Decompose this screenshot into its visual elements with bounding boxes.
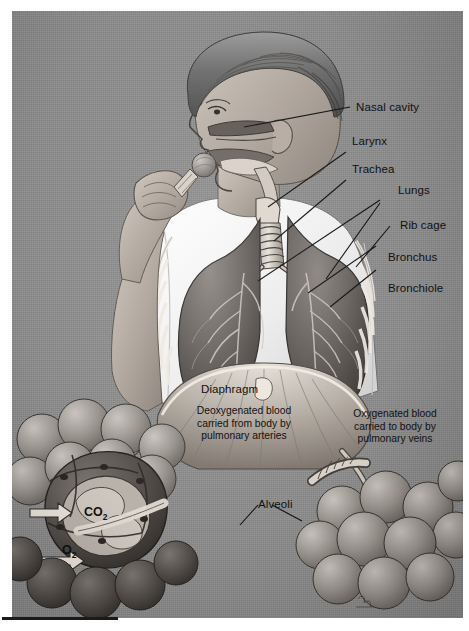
label-carbon-dioxide: CO2: [84, 505, 107, 522]
label-trachea: Trachea: [352, 163, 394, 176]
label-rib-cage: Rib cage: [400, 219, 446, 232]
co2-symbol: CO: [84, 505, 103, 519]
respiratory-system-figure: Nasal cavity Larynx Trachea Lungs Rib ca…: [0, 0, 469, 631]
label-oxygen: O2: [62, 543, 76, 560]
label-bronchiole: Bronchiole: [388, 282, 443, 295]
label-larynx: Larynx: [352, 135, 387, 148]
label-lungs: Lungs: [398, 184, 430, 197]
label-nasal-cavity: Nasal cavity: [356, 101, 419, 114]
co2-subscript: 2: [103, 512, 108, 522]
label-bronchus: Bronchus: [388, 251, 437, 264]
label-diaphragm: Diaphragm: [201, 383, 258, 396]
o2-subscript: 2: [72, 550, 77, 560]
bottom-rule: [2, 617, 118, 620]
label-alveoli: Alveoli: [258, 498, 293, 511]
o2-symbol: O: [62, 543, 72, 557]
caption-deoxygenated-blood: Deoxygenated blood carried from body by …: [160, 405, 328, 443]
caption-oxygenated-blood: Oxygenated blood carried to body by pulm…: [330, 408, 460, 446]
